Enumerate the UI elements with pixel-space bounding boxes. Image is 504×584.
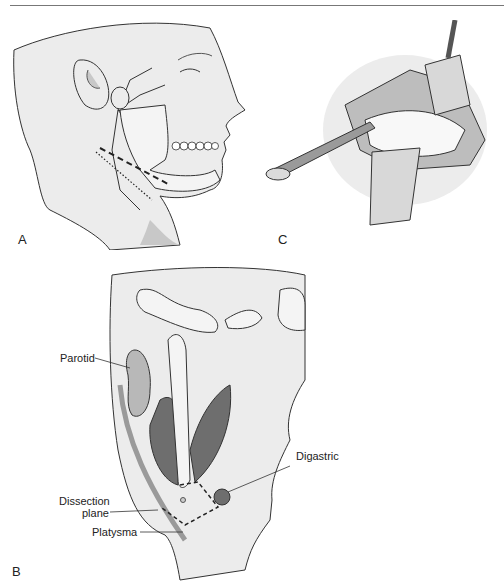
panel-c-illustration [260,20,504,250]
label-dissection-line1: Dissection [59,495,110,507]
panel-b-label: B [12,564,21,579]
panel-a-label: A [18,232,27,247]
label-digastric: Digastric [296,450,339,462]
panel-c-label: C [278,232,287,247]
panel-b-illustration [0,250,340,584]
top-rule [10,5,504,6]
label-parotid: Parotid [60,352,95,364]
label-dissection-line2: plane [82,507,109,519]
label-platysma: Platysma [92,526,137,538]
panel-a-illustration [0,20,260,250]
